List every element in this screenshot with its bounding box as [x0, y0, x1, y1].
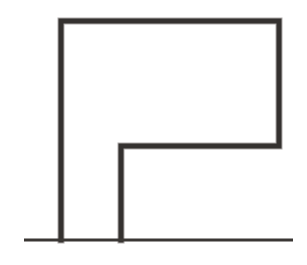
outline-polyline: [61, 21, 279, 240]
outline-polyline-texture: [61, 21, 279, 240]
line-drawing-svg: [0, 0, 307, 265]
figure-canvas: Notched rectilinear outline on ground li…: [0, 0, 307, 265]
